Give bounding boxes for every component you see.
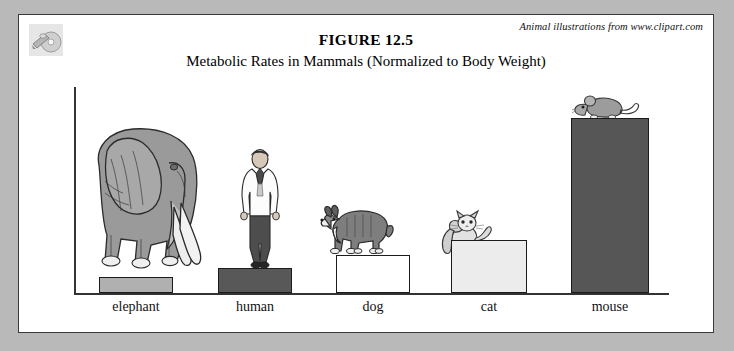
bar-label-cat: cat	[451, 299, 527, 315]
x-axis-line	[74, 293, 669, 295]
mouse-illustration	[570, 93, 642, 121]
bar-dog	[336, 255, 410, 293]
bar-chart: elephant human	[19, 15, 715, 334]
elephant-illustration	[81, 111, 209, 275]
human-illustration	[236, 148, 284, 268]
bar-cat	[451, 240, 527, 293]
bar-label-mouse: mouse	[571, 299, 649, 315]
y-axis-line	[74, 87, 76, 294]
bar-label-human: human	[218, 299, 292, 315]
dog-illustration	[317, 197, 395, 255]
figure-panel: Animal illustrations from www.clipart.co…	[18, 14, 714, 333]
bar-human	[218, 268, 292, 293]
bar-label-elephant: elephant	[99, 299, 173, 315]
bar-label-dog: dog	[336, 299, 410, 315]
bar-elephant	[99, 277, 173, 293]
bar-mouse	[571, 118, 649, 293]
